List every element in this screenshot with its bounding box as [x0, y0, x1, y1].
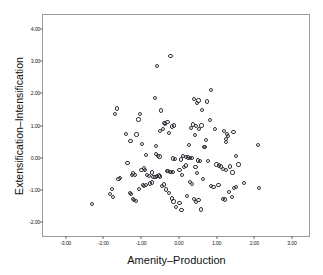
y-axis-tick-label: 3.00	[31, 58, 40, 64]
scatter-point	[134, 132, 138, 136]
x-axis-tick-mark	[216, 236, 217, 239]
y-axis-tick-label: -2.00	[29, 219, 40, 225]
scatter-point	[124, 132, 128, 136]
scatter-point	[206, 159, 210, 163]
y-axis-tick-mark	[40, 157, 43, 158]
scatter-point	[234, 154, 238, 158]
x-axis-label: Amenity–Production	[42, 254, 311, 266]
scatter-point	[228, 164, 232, 168]
scatter-point	[159, 108, 163, 112]
scatter-point	[171, 199, 175, 203]
scatter-point	[209, 88, 213, 92]
scatter-point	[190, 182, 194, 186]
scatter-point	[138, 112, 142, 116]
scatter-point	[199, 207, 203, 211]
scatter-point	[137, 187, 141, 191]
x-axis-tick-mark	[141, 236, 142, 239]
scatter-point	[170, 124, 174, 128]
scatter-point	[111, 195, 115, 199]
plot-area: 4.003.002.001.000.00-1.00-2.00-3.00-2.00…	[42, 14, 310, 237]
scatter-point	[184, 163, 188, 167]
scatter-point	[110, 187, 114, 191]
scatter-point	[224, 168, 228, 172]
x-axis-tick-label: 1.00	[212, 240, 221, 246]
scatter-point	[204, 138, 208, 142]
scatter-point	[189, 126, 193, 130]
scatter-point	[179, 208, 183, 212]
x-axis-tick-mark	[65, 236, 66, 239]
scatter-point	[242, 181, 246, 185]
scatter-point	[216, 183, 220, 187]
x-axis-tick-label: -3.00	[60, 240, 71, 246]
scatter-point	[193, 133, 197, 137]
x-axis-tick-mark	[254, 236, 255, 239]
y-axis-tick-mark	[40, 189, 43, 190]
scatter-point	[153, 96, 157, 100]
scatter-point	[224, 140, 228, 144]
scatter-point	[211, 185, 215, 189]
scatter-point	[155, 64, 159, 68]
y-axis-tick-mark	[40, 93, 43, 94]
scatter-point	[234, 185, 238, 189]
y-axis-tick-label: 2.00	[31, 90, 40, 96]
scatter-point	[223, 197, 227, 201]
y-axis-tick-mark	[40, 221, 43, 222]
scatter-point	[180, 173, 184, 177]
scatter-point	[125, 161, 129, 165]
scatter-point	[136, 117, 140, 121]
x-axis-tick-mark	[178, 236, 179, 239]
scatter-point	[200, 108, 204, 112]
x-axis-tick-label: 3.00	[287, 240, 296, 246]
scatter-point	[231, 130, 235, 134]
scatter-point	[174, 205, 178, 209]
scatter-point	[144, 153, 148, 157]
scatter-point	[129, 192, 133, 196]
y-axis-tick-label: 4.00	[31, 26, 40, 32]
scatter-point	[199, 123, 203, 127]
scatter-point	[158, 129, 162, 133]
x-axis-tick-label: 2.00	[250, 240, 259, 246]
scatter-plot-figure: Extensification–Intensification 4.003.00…	[0, 0, 323, 275]
scatter-point	[196, 198, 200, 202]
x-axis-tick-label: -2.00	[98, 240, 109, 246]
scatter-points-layer	[43, 15, 309, 236]
scatter-point	[154, 144, 158, 148]
x-axis-tick-mark	[292, 236, 293, 239]
y-axis-tick-mark	[40, 125, 43, 126]
scatter-point	[90, 202, 94, 206]
scatter-point	[116, 177, 120, 181]
y-axis-label: Extensification–Intensification	[13, 21, 25, 231]
scatter-point	[256, 143, 260, 147]
scatter-point	[143, 168, 147, 172]
scatter-point	[201, 177, 205, 181]
y-axis-tick-label: 0.00	[31, 155, 40, 161]
y-axis-tick-mark	[40, 61, 43, 62]
scatter-point	[171, 170, 175, 174]
scatter-point	[163, 122, 167, 126]
scatter-point	[113, 112, 117, 116]
scatter-point	[158, 174, 162, 178]
scatter-point	[205, 99, 209, 103]
scatter-point	[157, 154, 161, 158]
scatter-point	[195, 171, 199, 175]
scatter-point	[167, 191, 171, 195]
scatter-point	[140, 142, 144, 146]
scatter-point	[230, 170, 234, 174]
scatter-point	[187, 143, 191, 147]
y-axis-tick-label: 1.00	[31, 123, 40, 129]
scatter-point	[179, 157, 183, 161]
scatter-point	[177, 201, 181, 205]
scatter-point	[168, 54, 172, 58]
scatter-point	[208, 118, 212, 122]
scatter-point	[193, 165, 197, 169]
scatter-point	[171, 156, 175, 160]
y-axis-tick-mark	[40, 29, 43, 30]
scatter-point	[230, 195, 234, 199]
scatter-point	[198, 159, 202, 163]
scatter-point	[236, 162, 240, 166]
scatter-point	[185, 194, 189, 198]
x-axis-tick-mark	[103, 236, 104, 239]
scatter-point	[190, 156, 194, 160]
x-axis-tick-label: -1.00	[136, 240, 147, 246]
scatter-point	[130, 173, 134, 177]
